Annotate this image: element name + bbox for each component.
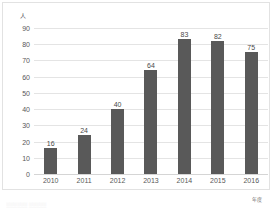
y-axis-tick-label: 40 bbox=[22, 106, 30, 113]
x-axis-tick-label: 2015 bbox=[201, 177, 234, 184]
bars-group: 16244064838275 bbox=[34, 28, 268, 174]
bar-value-label: 24 bbox=[80, 127, 88, 134]
bar-slot: 83 bbox=[168, 28, 201, 174]
bar-slot: 64 bbox=[134, 28, 167, 174]
bar[interactable]: 16 bbox=[44, 148, 57, 174]
chart-screenshot: 人 0102030405060708090 16244064838275 201… bbox=[0, 0, 273, 210]
bar-value-label: 16 bbox=[47, 140, 55, 147]
bar-value-label: 40 bbox=[114, 101, 122, 108]
x-axis-tick-label: 2013 bbox=[134, 177, 167, 184]
y-axis-tick-label: 80 bbox=[22, 41, 30, 48]
y-axis-tick-label: 90 bbox=[22, 25, 30, 32]
bar[interactable]: 24 bbox=[78, 135, 91, 174]
bar-value-label: 83 bbox=[180, 31, 188, 38]
cutoff-caption-strip: ░░░░░░ ░░░░░ bbox=[6, 202, 156, 208]
x-axis-tick-label: 2012 bbox=[101, 177, 134, 184]
bar[interactable]: 64 bbox=[144, 70, 157, 174]
bar[interactable]: 40 bbox=[111, 109, 124, 174]
y-axis-tick-label: 20 bbox=[22, 138, 30, 145]
y-axis-tick-label: 10 bbox=[22, 154, 30, 161]
y-axis-tick-label: 50 bbox=[22, 89, 30, 96]
plot-area: 0102030405060708090 16244064838275 bbox=[34, 28, 268, 174]
bar-slot: 75 bbox=[235, 28, 268, 174]
bar-slot: 16 bbox=[34, 28, 67, 174]
bar[interactable]: 83 bbox=[178, 39, 191, 174]
y-axis-tick-label: 70 bbox=[22, 57, 30, 64]
y-axis-unit-label: 人 bbox=[20, 12, 26, 20]
axis-baseline: 0 bbox=[34, 174, 268, 175]
bar[interactable]: 75 bbox=[245, 52, 258, 174]
bar-slot: 24 bbox=[67, 28, 100, 174]
bar-slot: 40 bbox=[101, 28, 134, 174]
y-axis-tick-label: 60 bbox=[22, 73, 30, 80]
y-axis-tick-label: 0 bbox=[26, 171, 30, 178]
y-axis-tick-label: 30 bbox=[22, 122, 30, 129]
bar-slot: 82 bbox=[201, 28, 234, 174]
x-axis-tick-labels: 2010201120122013201420152016 bbox=[34, 177, 268, 184]
bar-value-label: 82 bbox=[214, 33, 222, 40]
bar[interactable]: 82 bbox=[211, 41, 224, 174]
x-axis-tick-label: 2016 bbox=[235, 177, 268, 184]
bar-value-label: 75 bbox=[247, 44, 255, 51]
x-axis-tick-label: 2011 bbox=[67, 177, 100, 184]
x-axis-title: 年度 bbox=[252, 195, 262, 202]
x-axis-tick-label: 2010 bbox=[34, 177, 67, 184]
x-axis-tick-label: 2014 bbox=[168, 177, 201, 184]
chart-frame: 人 0102030405060708090 16244064838275 201… bbox=[2, 2, 270, 190]
bar-value-label: 64 bbox=[147, 62, 155, 69]
